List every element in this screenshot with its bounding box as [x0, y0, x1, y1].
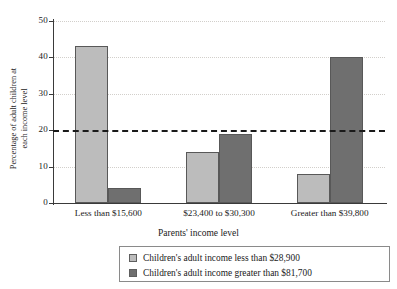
reference-line [53, 130, 385, 132]
legend-label-light: Children's adult income less than $28,90… [143, 253, 300, 263]
cropped-title-remnant [0, 0, 397, 7]
legend-swatch-light [129, 254, 137, 262]
bar [186, 152, 219, 203]
y-tick-label: 20 [39, 125, 48, 134]
bar-chart: 01020304050 Percentage of adult children… [0, 0, 397, 289]
y-axis-title: Percentage of adult children at each inc… [9, 44, 30, 194]
legend-swatch-dark [129, 269, 137, 277]
x-axis-category-label: Greater than $39,800 [260, 208, 397, 218]
x-axis-title: Parents' income level [0, 228, 397, 238]
legend-item: Children's adult income less than $28,90… [129, 251, 389, 265]
bar [219, 134, 252, 203]
y-tick-label: 50 [39, 16, 48, 25]
bar [297, 174, 330, 203]
y-axis-title-line2: each income level [19, 44, 30, 194]
legend-label-dark: Children's adult income greater than $81… [143, 268, 312, 278]
x-axis-line [53, 203, 387, 204]
y-axis-title-line1: Percentage of adult children at [9, 44, 20, 194]
bar [108, 188, 141, 203]
bar [75, 46, 108, 203]
y-tick-label: 40 [39, 52, 48, 61]
y-tick-label: 10 [39, 162, 48, 171]
legend: Children's adult income less than $28,90… [119, 246, 390, 282]
y-tick-mark [49, 203, 53, 204]
y-tick-label: 0 [43, 198, 48, 207]
plot-area [53, 21, 385, 203]
y-tick-label: 30 [39, 89, 48, 98]
legend-item: Children's adult income greater than $81… [129, 266, 389, 280]
